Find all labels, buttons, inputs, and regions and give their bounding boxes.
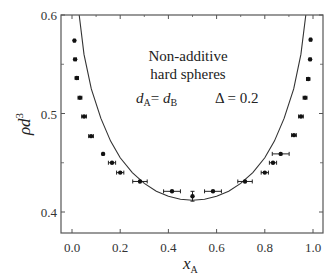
data-point [269,161,276,165]
data-point [205,189,222,193]
x-tick-label: 1.0 [305,240,321,255]
x-tick-label: 0.0 [64,240,80,255]
data-point [261,170,268,174]
y-tick-label: 0.4 [41,205,58,220]
svg-text:ρd3: ρd3 [13,112,34,136]
x-tick-label: 0.2 [112,240,128,255]
data-point [82,114,87,118]
x-tick-label: 0.8 [257,240,273,255]
annotation-line2: hard spheres [150,66,226,82]
theory-curve [79,15,306,200]
annotation-condition-delta: Δ = 0.2 [215,90,259,106]
data-point [303,96,307,100]
data-point [72,38,76,42]
x-tick-label: 0.6 [208,240,225,255]
data-point [238,179,252,183]
data-point [101,152,105,156]
x-axis-title: xA [182,254,199,275]
data-point [133,179,147,183]
x-tick-label: 0.4 [160,240,177,255]
data-point [164,189,181,193]
data-point [108,161,115,165]
data-point [89,134,94,138]
data-point [272,152,289,156]
annotation-line1: Non-additive [148,48,227,64]
y-tick-label: 0.6 [41,8,58,23]
annotation-condition-d: dA= dB [136,90,177,108]
y-tick-label: 0.5 [41,107,57,122]
data-point [299,114,304,118]
chart-canvas: 0.00.20.40.60.81.00.40.50.6 Non-additive… [0,0,330,276]
data-point [78,96,82,100]
svg-text:xA: xA [182,254,199,275]
data-point [292,133,297,137]
data-point [308,37,312,41]
y-axis-title: ρd3 [13,112,34,136]
plot-area [72,15,313,201]
data-point [306,77,310,81]
data-point [117,170,124,174]
svg-text:dA= dB: dA= dB [136,90,177,108]
data-point [75,76,79,80]
data-point [73,57,77,61]
data-point [308,57,312,61]
